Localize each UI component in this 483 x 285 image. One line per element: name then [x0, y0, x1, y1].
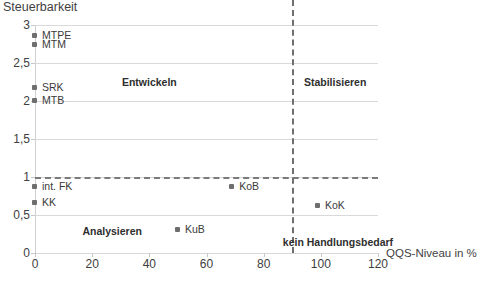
- y-tick-label: 1: [23, 170, 30, 184]
- x-tick-label: 100: [311, 257, 331, 271]
- quadrant-label: kein Handlungsbedarf: [283, 236, 393, 248]
- y-tick-label: 2: [23, 94, 30, 108]
- data-point-marker: [175, 227, 180, 232]
- data-point-marker: [32, 85, 37, 90]
- y-tick-label: 0,5: [13, 208, 30, 222]
- y-tick-mark: [31, 139, 35, 140]
- data-point-label: KK: [42, 196, 56, 208]
- y-tick-label: 0: [23, 246, 30, 260]
- y-tick-mark: [31, 25, 35, 26]
- y-tick-label: 3: [23, 18, 30, 32]
- data-point-label: KoK: [325, 199, 345, 211]
- data-point-label: int. FK: [42, 180, 72, 192]
- gridline-y: [35, 139, 378, 140]
- gridline-y: [35, 25, 378, 26]
- gridline-y: [35, 101, 378, 102]
- chart-canvas: Steuerbarkeit QQS-Niveau in % 00,511,522…: [0, 0, 483, 285]
- gridline-y: [35, 63, 378, 64]
- y-axis-title: Steuerbarkeit: [3, 0, 77, 14]
- vertical-threshold-line: [292, 0, 294, 253]
- x-axis-title: QQS-Niveau in %: [386, 247, 477, 259]
- data-point-label: SRK: [42, 81, 64, 93]
- data-point-label: KoB: [239, 180, 259, 192]
- quadrant-label: Entwickeln: [122, 76, 177, 88]
- x-tick-label: 40: [143, 257, 156, 271]
- data-point-label: KuB: [185, 223, 205, 235]
- x-tick-label: 0: [32, 257, 39, 271]
- gridline-y: [35, 215, 378, 216]
- data-point-label: MTB: [42, 94, 64, 106]
- data-point-marker: [32, 98, 37, 103]
- data-point-marker: [32, 200, 37, 205]
- x-tick-label: 80: [257, 257, 270, 271]
- data-point-marker: [229, 184, 234, 189]
- y-tick-label: 1,5: [13, 132, 30, 146]
- data-point-label: MTM: [42, 38, 66, 50]
- y-tick-mark: [31, 215, 35, 216]
- y-tick-label: 2,5: [13, 56, 30, 70]
- x-tick-label: 120: [368, 257, 388, 271]
- x-tick-label: 20: [85, 257, 98, 271]
- quadrant-label: Analysieren: [82, 225, 142, 237]
- x-tick-label: 60: [200, 257, 213, 271]
- data-point-marker: [32, 33, 37, 38]
- quadrant-label: Stabilisieren: [304, 76, 366, 88]
- plot-area: 00,511,522,53 020406080100120 Entwickeln…: [35, 25, 378, 253]
- data-point-marker: [32, 184, 37, 189]
- y-tick-mark: [31, 63, 35, 64]
- horizontal-threshold-line: [35, 177, 378, 179]
- data-point-marker: [315, 203, 320, 208]
- data-point-marker: [32, 42, 37, 47]
